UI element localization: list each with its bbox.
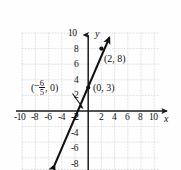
x-tick-minus-6: -6 bbox=[45, 113, 52, 123]
fraction-numerator: 6 bbox=[39, 79, 45, 87]
x-tick-minus-8: -8 bbox=[31, 113, 38, 123]
fraction-denominator: 5 bbox=[39, 87, 45, 96]
x-tick-8: 8 bbox=[138, 113, 142, 123]
y-tick-6: 6 bbox=[74, 60, 78, 70]
y-axis-label: y bbox=[95, 29, 99, 39]
x-tick-minus-10: -10 bbox=[14, 113, 25, 123]
point-marker-0-3 bbox=[86, 86, 90, 90]
y-tick-10: 10 bbox=[68, 29, 77, 39]
x-tick-minus-2: -2 bbox=[72, 113, 79, 123]
x-tick-2: 2 bbox=[99, 113, 103, 123]
coordinate-plane bbox=[0, 0, 181, 170]
x-tick-10: 10 bbox=[149, 113, 158, 123]
point-label-2-8: (2, 8) bbox=[104, 54, 126, 64]
y-tick-minus-8: -8 bbox=[71, 160, 78, 170]
y-tick-2: 2 bbox=[74, 91, 78, 101]
plotted-line bbox=[55, 38, 110, 166]
x-axis-label: x bbox=[164, 114, 168, 124]
point-marker-2-8 bbox=[99, 47, 103, 51]
graph-screenshot: 10 8 6 4 2 -2 -4 -6 -8 -10 -8 -6 -4 -2 2… bbox=[0, 0, 181, 170]
point-label-0-3: (0, 3) bbox=[93, 83, 115, 93]
x-tick-4: 4 bbox=[112, 113, 116, 123]
x-intercept-label: ( – 6 5 , 0) bbox=[31, 79, 58, 96]
y-tick-minus-4: -4 bbox=[71, 129, 78, 139]
x-intercept-fraction: 6 5 bbox=[39, 79, 45, 96]
x-tick-minus-4: -4 bbox=[58, 113, 65, 123]
y-tick-8: 8 bbox=[74, 45, 78, 55]
grid-horizontal-lines bbox=[22, 33, 160, 170]
y-tick-minus-6: -6 bbox=[71, 144, 78, 154]
y-tick-4: 4 bbox=[74, 76, 78, 86]
x-tick-6: 6 bbox=[125, 113, 129, 123]
x-intercept-rest: , 0) bbox=[45, 83, 58, 93]
